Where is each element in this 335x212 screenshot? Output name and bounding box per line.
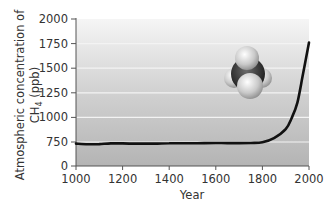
- y-tick-label: 1000: [39, 110, 68, 124]
- y-tick-label: 1500: [39, 61, 68, 75]
- y-tick-label: 750: [46, 135, 68, 149]
- y-axis-ticks: 075010001250150017502000: [39, 12, 76, 173]
- x-tick-label: 1000: [61, 172, 90, 186]
- y-tick-label: 2000: [39, 12, 68, 26]
- x-tick-label: 2000: [294, 172, 323, 186]
- svg-text:CH4 (ppb): CH4 (ppb): [28, 67, 44, 123]
- methane-concentration-chart: 075010001250150017502000 100012001400160…: [0, 0, 335, 212]
- y-tick-label: 1250: [39, 86, 68, 100]
- x-tick-label: 1600: [201, 172, 230, 186]
- y-axis-title: Atmospheric concentration of: [13, 9, 27, 180]
- x-tick-label: 1800: [248, 172, 277, 186]
- y-tick-label: 1750: [39, 37, 68, 51]
- svg-text:Atmospheric concentration of: Atmospheric concentration of: [13, 9, 27, 180]
- x-tick-label: 1200: [108, 172, 137, 186]
- y-tick-label: 0: [61, 159, 68, 173]
- x-axis-title: Year: [179, 188, 205, 202]
- x-tick-label: 1400: [155, 172, 184, 186]
- x-axis-ticks: 100012001400160018002000: [61, 166, 323, 186]
- y-axis-title-unit: CH4 (ppb): [28, 67, 44, 123]
